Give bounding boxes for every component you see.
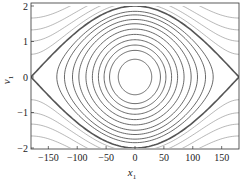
y-axis-label: v1 (0, 75, 15, 84)
y-axis-ticks: −2−1012 (17, 1, 34, 154)
trajectory (110, 50, 161, 103)
x-tick-label: 0 (133, 152, 138, 163)
trajectory (57, 11, 213, 142)
trajectory (72, 19, 197, 134)
x-tick-label: −150 (38, 152, 59, 163)
x-tick-label: −50 (98, 152, 114, 163)
y-tick-label: −1 (17, 107, 28, 118)
y-tick-label: −2 (17, 143, 28, 154)
phase-portrait-chart: −150−100−50050100150 −2−1012 x1 v1 (0, 0, 243, 190)
x-tick-label: −100 (67, 152, 88, 163)
x-axis-label: x1 (127, 166, 137, 181)
x-tick-label: 150 (214, 152, 229, 163)
x-tick-label: 100 (185, 152, 200, 163)
y-tick-label: 0 (23, 72, 28, 83)
trajectory (92, 34, 177, 119)
separatrix-curve (31, 6, 239, 148)
trajectory (104, 45, 166, 109)
trajectory (86, 29, 184, 125)
y-tick-label: 2 (23, 1, 28, 12)
trajectory (118, 59, 151, 95)
plot-frame (31, 3, 239, 149)
y-tick-label: 1 (23, 36, 28, 47)
x-tick-label: 50 (159, 152, 169, 163)
x-axis-ticks: −150−100−50050100150 (38, 146, 229, 163)
